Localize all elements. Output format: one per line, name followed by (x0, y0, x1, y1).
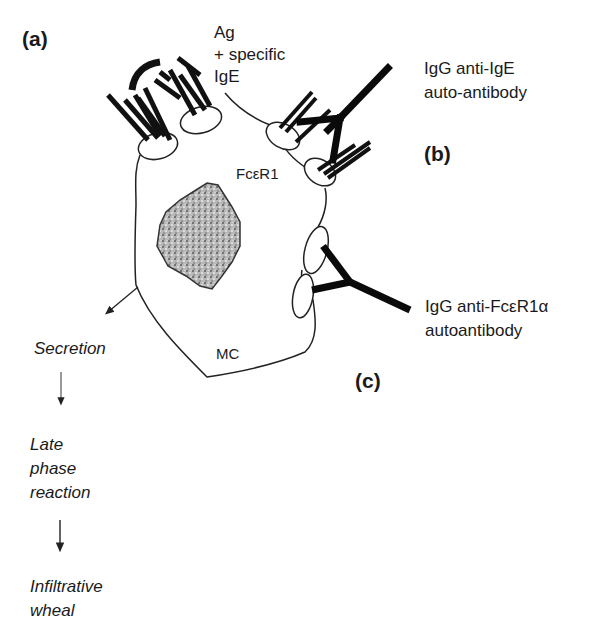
anti-fcer-label-line2: autoantibody (425, 322, 522, 339)
anti-fcer-label-line1: IgG anti-FcεR1α (425, 298, 548, 315)
antigen-label-line3: IgE (214, 68, 240, 85)
secretion-arrow (108, 287, 138, 312)
anti-ige-label-line1: IgG anti-IgE (424, 60, 515, 77)
cascade-late-phase-line3: reaction (30, 484, 90, 501)
igg-anti-ige-autoantibody (300, 68, 388, 160)
panel-c-label: (c) (355, 370, 381, 391)
cascade-wheal-line2: wheal (30, 602, 74, 619)
cascade-secretion: Secretion (34, 340, 106, 357)
panel-a-label: (a) (22, 28, 48, 49)
antigen-label-line1: Ag (214, 24, 235, 41)
antigen-crosslink (132, 62, 160, 90)
mast-cell-activation-diagram: (a) (b) (c) Ag + specific IgE IgG anti-I… (0, 0, 596, 634)
cascade-late-phase-line1: Late (30, 436, 63, 453)
nucleus (157, 183, 240, 289)
cascade-wheal-line1: Infiltrative (30, 578, 103, 595)
panel-b-label: (b) (424, 143, 451, 164)
receptor-label: FcεR1 (236, 166, 279, 181)
igg-anti-fcer1a-autoantibody (312, 246, 410, 310)
anti-ige-label-line2: auto-antibody (424, 84, 527, 101)
cascade-late-phase-line2: phase (30, 460, 76, 477)
mast-cell-label: MC (216, 346, 239, 361)
antigen-label-line2: + specific (214, 46, 285, 63)
